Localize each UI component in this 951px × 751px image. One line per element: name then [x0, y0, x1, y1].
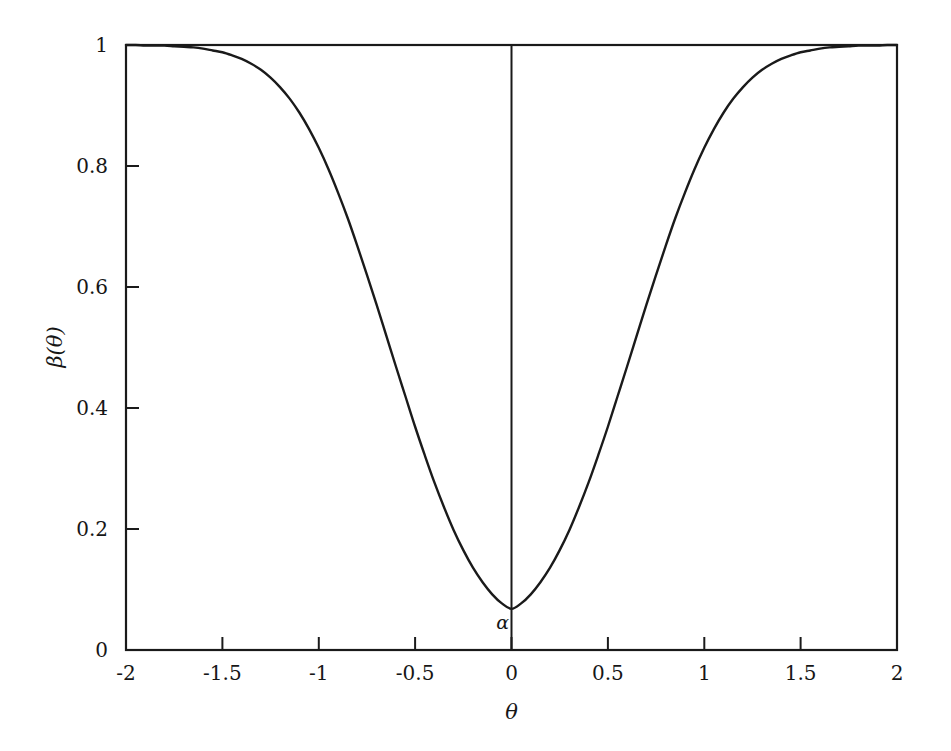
y-tick-label-0: 0: [0, 640, 108, 660]
x-tick-label-neg2: -2: [116, 663, 135, 683]
x-axis-title: θ: [505, 700, 518, 724]
x-tick-label-1-5: 1.5: [785, 663, 817, 683]
y-tick-label-0-2: 0.2: [0, 519, 108, 539]
y-tick-label-1: 1: [0, 35, 108, 55]
x-tick-label-0: 0: [505, 663, 518, 683]
plot-canvas: [0, 0, 951, 751]
y-tick-label-0-8: 0.8: [0, 156, 108, 176]
y-tick-label-0-6: 0.6: [0, 277, 108, 297]
power-function-figure: 0 0.2 0.4 0.6 0.8 1 -2 -1.5 -1 -0.5 0 0.…: [0, 0, 951, 751]
alpha-annotation-label: α: [496, 611, 509, 633]
x-tick-label-0-5: 0.5: [592, 663, 624, 683]
y-tick-label-0-4: 0.4: [0, 398, 108, 418]
x-tick-label-neg1: -1: [309, 663, 328, 683]
x-tick-label-1: 1: [698, 663, 711, 683]
x-tick-label-2: 2: [891, 663, 904, 683]
x-tick-label-neg0-5: -0.5: [396, 663, 435, 683]
y-axis-tick-marks: [126, 45, 139, 650]
x-tick-label-neg1-5: -1.5: [203, 663, 242, 683]
y-axis-title: β(θ): [43, 326, 67, 367]
